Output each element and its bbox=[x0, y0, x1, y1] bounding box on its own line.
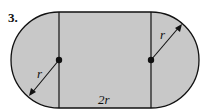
stadium-figure: 3. r r 2r bbox=[0, 0, 210, 110]
problem-number: 3. bbox=[8, 10, 18, 25]
bottom-width-label: 2r bbox=[98, 92, 111, 107]
